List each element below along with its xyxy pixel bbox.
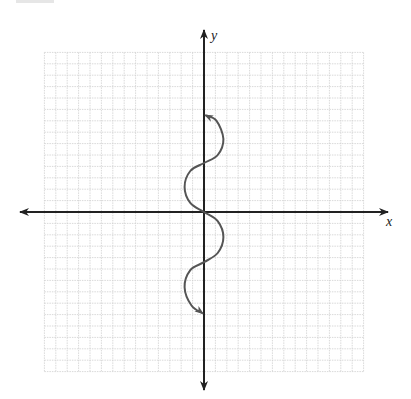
x-axis-label: x — [385, 214, 393, 229]
coordinate-plane: x y — [0, 0, 411, 399]
y-axis-label: y — [209, 28, 218, 43]
axes: x y — [20, 28, 393, 390]
